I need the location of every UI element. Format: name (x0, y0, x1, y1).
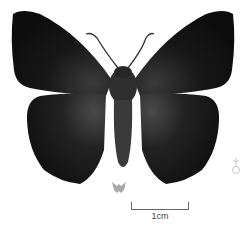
scale-bar (131, 202, 189, 210)
head (114, 66, 132, 78)
butterfly-specimen (0, 0, 246, 232)
butterfly-silhouette-icon (112, 182, 126, 193)
left-forewing (12, 11, 112, 96)
sex-symbol-icon (233, 158, 240, 174)
left-hindwing (27, 93, 106, 184)
right-forewing (134, 11, 234, 96)
right-hindwing (140, 93, 219, 184)
scale-bar-label: 1cm (131, 211, 189, 221)
abdomen (114, 100, 132, 167)
